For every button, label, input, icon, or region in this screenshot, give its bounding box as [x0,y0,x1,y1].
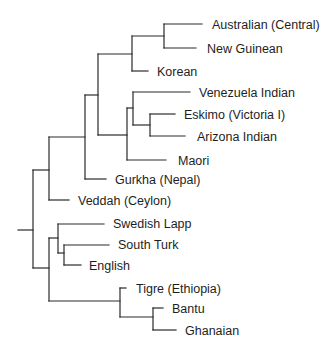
leaf-label-eskimo-victoria-i: Eskimo (Victoria I) [184,108,285,122]
leaf-label-ghanaian: Ghanaian [185,324,239,338]
leaf-label-maori: Maori [178,154,209,168]
leaf-label-arizona-indian: Arizona Indian [197,130,277,144]
leaf-labels: Australian (Central) New Guinean Korean … [78,18,320,338]
leaf-label-english: English [89,259,130,273]
leaf-label-tigre-ethiopia: Tigre (Ethiopia) [136,282,221,296]
leaf-label-new-guinean: New Guinean [207,42,283,56]
leaf-label-south-turk: South Turk [118,238,179,252]
leaf-label-veddah-ceylon: Veddah (Ceylon) [78,194,171,208]
leaf-label-australian-central: Australian (Central) [212,18,320,32]
leaf-label-swedish-lapp: Swedish Lapp [113,217,192,231]
root-node [18,170,49,268]
leaf-label-bantu: Bantu [172,302,205,316]
leaf-label-gurkha-nepal: Gurkha (Nepal) [115,173,200,187]
leaf-label-venezuela-indian: Venezuela Indian [199,86,295,100]
leaf-label-korean: Korean [157,65,197,79]
dendrogram: Australian (Central) New Guinean Korean … [0,0,329,347]
